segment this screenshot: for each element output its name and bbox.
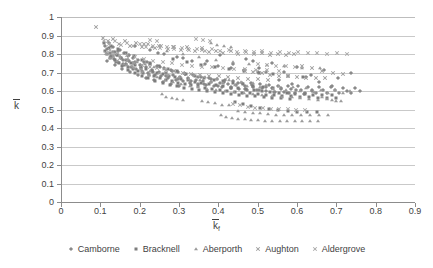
- y-axis-title: k: [14, 100, 19, 111]
- marker-cross: [296, 50, 301, 55]
- x-tick-label-0.9: 0.9: [403, 207, 427, 216]
- marker-cross: [125, 40, 130, 45]
- x-tickmark-0.4: [218, 203, 219, 207]
- legend-item-camborne[interactable]: Camborne: [68, 244, 120, 254]
- chart-legend: CamborneBracknellAberporthAughtonAldergr…: [0, 244, 433, 254]
- scatter-chart: 00.10.20.30.40.50.60.70.80.91 00.10.20.3…: [0, 0, 433, 268]
- marker-cross: [243, 48, 248, 53]
- marker-cross: [293, 65, 298, 70]
- y-axis-title-text: k: [14, 100, 19, 111]
- legend-item-bracknell[interactable]: Bracknell: [133, 244, 180, 254]
- marker-cross: [324, 51, 329, 56]
- marker-cross: [172, 47, 177, 52]
- y-tickmark-0.5: [57, 110, 61, 111]
- legend-swatch-cross-icon: [312, 246, 318, 252]
- marker-cross: [251, 50, 256, 55]
- x-tickmark-0.5: [258, 203, 259, 207]
- marker-cross: [118, 43, 123, 48]
- x-tick-label-0.1: 0.1: [88, 207, 112, 216]
- x-tick-label-0.3: 0.3: [167, 207, 191, 216]
- legend-item-aberporth[interactable]: Aberporth: [193, 244, 243, 254]
- y-tick-label-0.1: 0.1: [26, 180, 54, 189]
- marker-cross: [151, 58, 156, 63]
- y-tick-label-0.4: 0.4: [26, 124, 54, 133]
- marker-cross: [160, 60, 165, 65]
- marker-cross: [315, 50, 320, 55]
- marker-cross: [287, 51, 292, 56]
- y-axis-line: [61, 17, 62, 203]
- marker-cross: [345, 52, 350, 57]
- legend-swatch-diamond-icon: [68, 246, 74, 252]
- marker-cross: [200, 37, 205, 42]
- marker-cross: [165, 44, 170, 49]
- y-tick-label-0.5: 0.5: [26, 106, 54, 115]
- marker-cross: [101, 38, 106, 43]
- marker-cross: [293, 107, 298, 112]
- marker-cross: [116, 50, 121, 55]
- legend-item-aldergrove[interactable]: Aldergrove: [312, 244, 366, 254]
- marker-cross: [269, 106, 274, 111]
- legend-label: Aberporth: [203, 244, 243, 254]
- marker-cross: [234, 49, 239, 54]
- marker-cross: [131, 44, 136, 49]
- marker-cross: [107, 41, 112, 46]
- legend-swatch-triangle-icon: [193, 246, 199, 252]
- marker-cross: [278, 49, 283, 54]
- marker-cross: [193, 36, 198, 41]
- marker-cross: [276, 68, 281, 73]
- marker-cross: [302, 107, 307, 112]
- marker-cross: [142, 57, 147, 62]
- marker-cross: [200, 64, 205, 69]
- y-tickmark-0.9: [57, 36, 61, 37]
- marker-cross: [312, 247, 317, 252]
- marker-cross: [158, 46, 163, 51]
- marker-cross: [253, 105, 258, 110]
- x-tickmark-0.1: [100, 203, 101, 207]
- x-tick-label-0.7: 0.7: [324, 207, 348, 216]
- marker-cross: [255, 61, 260, 66]
- marker-cross: [144, 45, 149, 50]
- legend-swatch-square-icon: [133, 246, 139, 252]
- marker-cross: [256, 247, 261, 252]
- marker-cross: [283, 64, 288, 69]
- marker-cross: [334, 50, 339, 55]
- marker-cross: [238, 103, 243, 108]
- marker-cross: [245, 104, 250, 109]
- x-tickmark-0.6: [297, 203, 298, 207]
- y-tick-label-0.6: 0.6: [26, 87, 54, 96]
- x-tickmark-0.7: [336, 203, 337, 207]
- marker-cross: [305, 51, 310, 56]
- marker-cross: [180, 62, 185, 67]
- legend-label: Bracknell: [143, 244, 180, 254]
- x-tickmark-0: [61, 203, 62, 207]
- marker-cross: [194, 46, 199, 51]
- marker-square: [134, 248, 137, 251]
- marker-cross: [133, 55, 138, 60]
- x-tick-label-0.2: 0.2: [128, 207, 152, 216]
- marker-diamond: [69, 247, 73, 251]
- x-tickmark-0.2: [140, 203, 141, 207]
- x-tickmark-0.9: [415, 203, 416, 207]
- legend-label: Aldergrove: [322, 244, 366, 254]
- x-tick-label-0.5: 0.5: [246, 207, 270, 216]
- y-tick-label-0.7: 0.7: [26, 69, 54, 78]
- legend-item-aughton[interactable]: Aughton: [255, 244, 299, 254]
- y-tick-label-0.2: 0.2: [26, 161, 54, 170]
- y-tickmark-0.1: [57, 184, 61, 185]
- x-tick-label-0.8: 0.8: [364, 207, 388, 216]
- marker-cross: [231, 66, 236, 71]
- marker-cross: [274, 63, 279, 68]
- marker-cross: [242, 67, 247, 72]
- marker-cross: [265, 68, 270, 73]
- marker-cross: [277, 107, 282, 112]
- y-tickmark-0.6: [57, 91, 61, 92]
- marker-cross: [151, 43, 156, 48]
- x-tickmark-0.8: [376, 203, 377, 207]
- y-tickmark-0.3: [57, 147, 61, 148]
- marker-cross: [285, 107, 290, 112]
- y-tick-label-0.8: 0.8: [26, 50, 54, 59]
- marker-cross: [226, 47, 231, 52]
- marker-cross: [261, 106, 266, 111]
- x-axis-title: kf: [0, 220, 433, 232]
- marker-cross: [231, 101, 236, 106]
